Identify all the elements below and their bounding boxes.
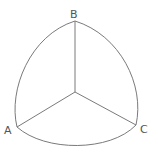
arc-a-b bbox=[15, 21, 75, 127]
spoke-center-c bbox=[75, 92, 136, 125]
vertex-label-c: C bbox=[140, 123, 148, 136]
spoke-center-a bbox=[17, 92, 75, 127]
vertex-label-a: A bbox=[4, 124, 12, 137]
arc-c-a bbox=[17, 125, 136, 146]
vertex-label-b: B bbox=[70, 8, 78, 21]
spherical-triangle-diagram: B A C bbox=[0, 0, 158, 159]
